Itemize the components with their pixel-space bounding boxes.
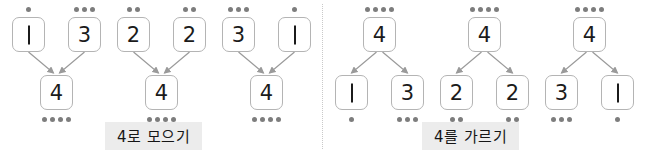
number-card-value (13, 25, 44, 44)
pip-row-part (183, 6, 196, 12)
pip-dot-icon (50, 117, 55, 122)
number-card-sum[interactable]: 4 (363, 17, 396, 52)
pip-dot-icon (183, 7, 188, 12)
pip-dot-icon (470, 7, 475, 12)
pip-dot-icon (66, 117, 71, 122)
number-card-value: 2 (441, 82, 472, 103)
number-card-part[interactable]: 3 (222, 17, 255, 52)
number-card-part[interactable] (335, 75, 368, 110)
pip-dot-icon (583, 7, 588, 12)
pip-dot-icon (244, 7, 249, 12)
pip-dot-icon (458, 117, 463, 122)
pip-dot-icon (506, 117, 511, 122)
pip-dot-icon (163, 117, 168, 122)
pip-dot-icon (373, 7, 378, 12)
number-card-sum[interactable]: 4 (573, 17, 606, 52)
pip-dot-icon (58, 117, 63, 122)
pip-dot-icon (591, 7, 596, 12)
pip-dot-icon (155, 117, 160, 122)
pip-row-part (74, 6, 95, 12)
number-card-value: 4 (251, 82, 282, 103)
number-bond-group: 422 (432, 0, 537, 125)
pip-dot-icon (575, 7, 580, 12)
number-card-sum[interactable]: 4 (40, 75, 73, 110)
number-card-value: 3 (223, 24, 254, 45)
number-bond-group: 43 (214, 0, 319, 125)
pip-row-part (397, 116, 418, 122)
pip-dot-icon (389, 7, 394, 12)
pip-dot-icon (599, 7, 604, 12)
number-card-part[interactable]: 3 (545, 75, 578, 110)
pip-dot-icon (567, 117, 572, 122)
pip-row-part (292, 6, 297, 12)
pip-dot-icon (365, 7, 370, 12)
pip-row-part (26, 6, 31, 12)
pip-row-part (551, 116, 572, 122)
pip-dot-icon (405, 117, 410, 122)
number-card-part[interactable]: 3 (391, 75, 424, 110)
number-card-value: 3 (392, 82, 423, 103)
pip-dot-icon (260, 117, 265, 122)
pip-dot-icon (127, 7, 132, 12)
pip-row-sum (42, 116, 71, 122)
pip-dot-icon (90, 7, 95, 12)
pip-dot-icon (486, 7, 491, 12)
pip-row-part (228, 6, 249, 12)
pip-dot-icon (135, 7, 140, 12)
pip-dot-icon (191, 7, 196, 12)
pip-dot-icon (276, 117, 281, 122)
pip-row-part (615, 116, 620, 122)
pip-row-part (127, 6, 140, 12)
pip-dot-icon (478, 7, 483, 12)
number-card-value (336, 83, 367, 102)
number-card-part[interactable]: 2 (173, 17, 206, 52)
pip-dot-icon (42, 117, 47, 122)
pip-row-sum (252, 116, 281, 122)
number-bond-group: 43 (327, 0, 432, 125)
number-card-part[interactable]: 2 (440, 75, 473, 110)
number-card-value: 3 (69, 24, 100, 45)
number-card-value: 4 (574, 24, 605, 45)
pip-dot-icon (252, 117, 257, 122)
number-card-value (279, 25, 310, 44)
number-card-value: 2 (497, 82, 528, 103)
number-card-part[interactable]: 2 (496, 75, 529, 110)
number-card-part[interactable] (601, 75, 634, 110)
pip-row-part (349, 116, 354, 122)
number-card-value: 4 (469, 24, 500, 45)
number-card-sum[interactable]: 4 (250, 75, 283, 110)
pip-dot-icon (349, 117, 354, 122)
pip-dot-icon (268, 117, 273, 122)
pip-row-sum (365, 6, 394, 12)
pip-dot-icon (236, 7, 241, 12)
number-card-value: 2 (118, 24, 149, 45)
number-card-part[interactable]: 3 (68, 17, 101, 52)
pip-dot-icon (381, 7, 386, 12)
number-card-value: 2 (174, 24, 205, 45)
number-card-part[interactable] (278, 17, 311, 52)
pip-dot-icon (615, 117, 620, 122)
number-bond-group: 43 (537, 0, 642, 125)
pip-row-sum (470, 6, 499, 12)
pip-dot-icon (82, 7, 87, 12)
number-card-part[interactable]: 2 (117, 17, 150, 52)
pip-dot-icon (228, 7, 233, 12)
number-card-value (602, 83, 633, 102)
number-card-value: 4 (146, 82, 177, 103)
number-card-sum[interactable]: 4 (145, 75, 178, 110)
pip-dot-icon (514, 117, 519, 122)
pip-dot-icon (171, 117, 176, 122)
number-card-sum[interactable]: 4 (468, 17, 501, 52)
pip-dot-icon (551, 117, 556, 122)
pip-dot-icon (559, 117, 564, 122)
number-card-value: 3 (546, 82, 577, 103)
number-card-value: 4 (364, 24, 395, 45)
number-card-part[interactable] (12, 17, 45, 52)
number-card-value: 4 (41, 82, 72, 103)
pip-dot-icon (26, 7, 31, 12)
pip-dot-icon (74, 7, 79, 12)
caption-compose: 4로 모으기 (105, 122, 202, 150)
number-bond-worksheet: 4342243 4342243 4로 모으기 4를 가르기 (0, 0, 645, 153)
pip-dot-icon (147, 117, 152, 122)
pip-dot-icon (397, 117, 402, 122)
